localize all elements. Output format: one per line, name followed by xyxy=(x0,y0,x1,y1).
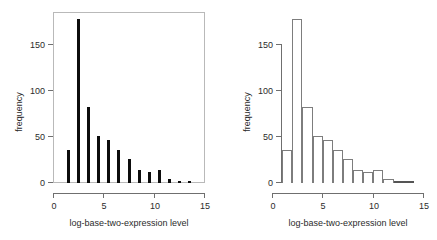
histogram-bar xyxy=(302,107,312,183)
panel-right-histogram: 0 50 100 150 0 5 10 15 log-base-two-expr… xyxy=(219,0,437,240)
right-xtick-label-5: 5 xyxy=(320,202,325,211)
figure-container: 0 50 100 150 0 5 10 15 log-base-two-expr… xyxy=(0,0,437,240)
right-data-area xyxy=(272,12,424,183)
right-ytick-label-100: 100 xyxy=(253,87,273,96)
left-xtick-10 xyxy=(154,193,155,198)
left-ytick-100 xyxy=(48,90,53,91)
histogram-bar xyxy=(313,136,323,183)
right-xtick-5 xyxy=(322,193,323,198)
histogram-bar xyxy=(373,170,383,183)
spike-bar xyxy=(117,150,120,183)
right-xtick-10 xyxy=(373,193,374,198)
right-ytick-label-0: 0 xyxy=(258,179,273,188)
histogram-bar xyxy=(394,181,404,183)
left-yaxis-title: frequency xyxy=(14,92,24,132)
histogram-bar xyxy=(343,159,353,183)
left-data-area xyxy=(53,12,205,183)
spike-bar xyxy=(97,136,100,183)
left-xtick-15 xyxy=(204,193,205,198)
histogram-bar xyxy=(323,140,333,183)
histogram-bar xyxy=(292,19,302,183)
histogram-bar xyxy=(404,181,414,183)
left-xaxis-title: log-base-two-expression level xyxy=(69,218,188,228)
right-xtick-15 xyxy=(423,193,424,198)
left-xaxis-line xyxy=(53,193,205,194)
left-xtick-label-0: 0 xyxy=(51,202,56,211)
histogram-bar xyxy=(282,150,292,183)
spike-bar xyxy=(138,170,141,183)
left-xtick-label-10: 10 xyxy=(150,202,160,211)
spike-bar xyxy=(67,150,70,183)
spike-bar xyxy=(188,181,191,183)
right-ytick-50 xyxy=(276,136,282,137)
histogram-bar xyxy=(333,150,343,183)
left-ytick-label-0: 0 xyxy=(30,179,45,188)
spike-bar xyxy=(148,172,151,183)
spike-bar xyxy=(107,140,110,183)
spike-bar xyxy=(77,19,80,183)
left-ytick-label-100: 100 xyxy=(25,87,45,96)
left-ytick-label-50: 50 xyxy=(30,133,45,142)
right-ytick-150 xyxy=(276,44,282,45)
histogram-bar xyxy=(353,170,363,183)
right-xtick-label-10: 10 xyxy=(369,202,379,211)
left-ytick-0 xyxy=(48,182,53,183)
spike-bar xyxy=(168,179,171,183)
spike-bar xyxy=(158,170,161,183)
left-xtick-5 xyxy=(103,193,104,198)
histogram-bar xyxy=(383,179,393,183)
right-xtick-label-0: 0 xyxy=(270,202,275,211)
right-xaxis-line xyxy=(272,193,424,194)
panel-left-spike-plot: 0 50 100 150 0 5 10 15 log-base-two-expr… xyxy=(0,0,218,240)
left-xtick-label-5: 5 xyxy=(101,202,106,211)
right-ytick-100 xyxy=(276,90,282,91)
right-xaxis-title: log-base-two-expression level xyxy=(288,218,407,228)
left-ytick-50 xyxy=(48,136,53,137)
histogram-bar xyxy=(363,172,373,183)
left-ytick-label-150: 150 xyxy=(25,41,45,50)
right-ytick-0 xyxy=(276,182,282,183)
right-yaxis-title: frequency xyxy=(242,92,252,132)
left-ytick-150 xyxy=(48,44,53,45)
left-xtick-0 xyxy=(53,193,54,198)
right-ytick-label-50: 50 xyxy=(258,133,273,142)
spike-bar xyxy=(178,181,181,183)
spike-bar xyxy=(87,107,90,183)
right-xtick-label-15: 15 xyxy=(419,202,429,211)
right-ytick-label-150: 150 xyxy=(253,41,273,50)
spike-bar xyxy=(128,159,131,183)
left-xtick-label-15: 15 xyxy=(200,202,210,211)
right-xtick-0 xyxy=(272,193,273,198)
